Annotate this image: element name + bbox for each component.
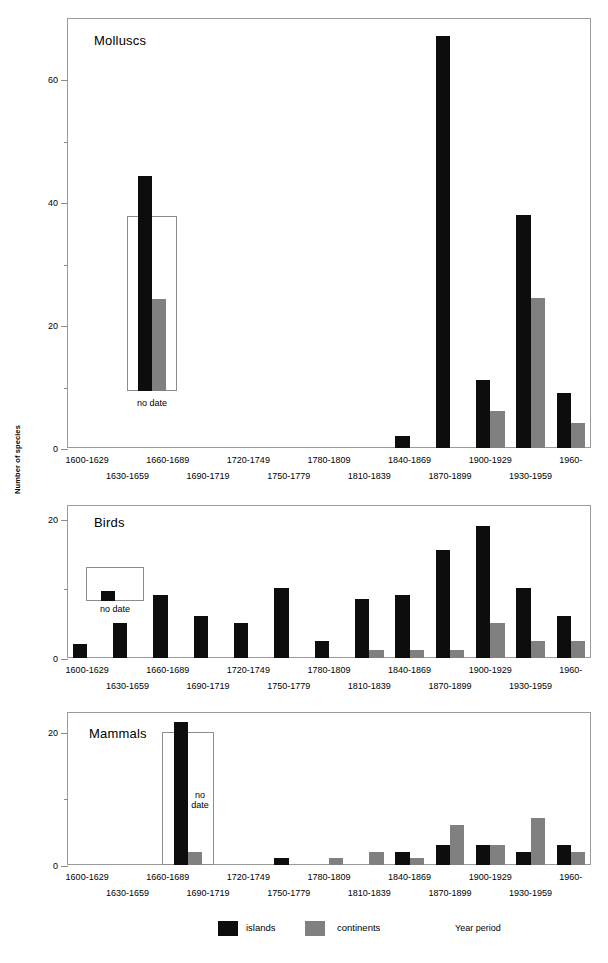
bar-islands (73, 644, 87, 658)
x-tick-label: 1840-1869 (370, 665, 450, 675)
x-tick-label: 1690-1719 (168, 471, 248, 481)
x-tick-label: 1780-1809 (289, 665, 369, 675)
bar-group-birds (67, 505, 591, 658)
bar-continents (571, 423, 585, 448)
x-tick-label: 1720-1749 (208, 665, 288, 675)
x-tick-label: 1810-1839 (329, 888, 409, 898)
no-date-line-1: no (195, 790, 205, 800)
x-axis-labels-birds: 1600-16291630-16591660-16891690-17191720… (67, 665, 591, 705)
x-tick-label: 1780-1809 (289, 455, 369, 465)
bar-islands (194, 616, 208, 658)
x-tick-label: 1900-1929 (450, 665, 530, 675)
bar-islands (395, 852, 409, 865)
bar-group-mammals (67, 712, 591, 865)
y-major-tick (61, 449, 68, 450)
x-tick-label: 1660-1689 (128, 872, 208, 882)
x-tick-label: 1630-1659 (87, 681, 167, 691)
x-tick-label: 1840-1869 (370, 455, 450, 465)
x-tick-label: 1750-1779 (249, 471, 329, 481)
x-tick-label: 1930-1959 (491, 681, 571, 691)
panel-birds: 020 Birds no date (67, 505, 591, 658)
bar-continents (490, 845, 504, 865)
no-date-bar-islands (138, 176, 152, 391)
panel-molluscs: 0204060 Molluscs no date (67, 18, 591, 448)
x-tick-label: 1870-1899 (410, 681, 490, 691)
bar-islands (476, 526, 490, 658)
x-tick-label: 1750-1779 (249, 888, 329, 898)
x-tick-label: 1870-1899 (410, 471, 490, 481)
bar-islands (516, 852, 530, 865)
y-axis-title: Number of species (13, 405, 22, 515)
bar-continents (410, 650, 424, 658)
bar-continents (531, 298, 545, 449)
x-tick-label: 1660-1689 (128, 455, 208, 465)
bar-islands (436, 550, 450, 658)
x-axis-title: Year period (455, 923, 501, 933)
panel-mammals: 020 Mammals no date (67, 712, 591, 865)
bar-islands (234, 623, 248, 658)
bar-continents (531, 818, 545, 865)
bar-islands (274, 588, 288, 658)
x-tick-label: 1600-1629 (47, 665, 127, 675)
bar-islands (315, 641, 329, 658)
x-tick-label: 1780-1809 (289, 872, 369, 882)
x-axis-labels-molluscs: 1600-16291630-16591660-16891690-17191720… (67, 455, 591, 495)
y-tick-label: 20 (18, 321, 58, 331)
y-tick-label: 0 (18, 654, 58, 664)
bar-islands (557, 845, 571, 865)
bar-continents (490, 411, 504, 448)
y-tick-label: 60 (18, 75, 58, 85)
y-tick-label: 20 (18, 515, 58, 525)
no-date-bar-continents (152, 299, 166, 391)
x-tick-label: 1630-1659 (87, 888, 167, 898)
x-tick-label: 1930-1959 (491, 471, 571, 481)
bar-continents (329, 858, 343, 865)
legend-label-islands: islands (246, 922, 276, 933)
x-tick-label: 1810-1839 (329, 681, 409, 691)
y-tick-label: 20 (18, 728, 58, 738)
x-tick-label: 1900-1929 (450, 872, 530, 882)
bar-continents (450, 650, 464, 658)
no-date-label-molluscs: no date (117, 398, 187, 408)
bar-islands (355, 599, 369, 658)
legend: islands continents Year period (0, 921, 608, 951)
legend-swatch-islands (218, 921, 238, 936)
bar-continents (369, 650, 383, 658)
bar-islands (113, 623, 127, 658)
bar-continents (571, 641, 585, 658)
x-tick-label: 1720-1749 (208, 872, 288, 882)
bar-islands (395, 595, 409, 658)
y-major-tick (61, 866, 68, 867)
x-tick-label: 1630-1659 (87, 471, 167, 481)
legend-swatch-continents (305, 921, 325, 936)
no-date-bar-islands (174, 722, 188, 865)
bar-continents (450, 825, 464, 865)
x-tick-label: 1960- (531, 665, 608, 675)
x-axis-labels-mammals: 1600-16291630-16591660-16891690-17191720… (67, 872, 591, 912)
x-tick-label: 1690-1719 (168, 681, 248, 691)
bar-islands (436, 845, 450, 865)
bar-islands (395, 436, 409, 448)
no-date-label-mammals: no date (183, 790, 217, 811)
x-tick-label: 1870-1899 (410, 888, 490, 898)
bar-islands (516, 215, 530, 448)
bar-islands (436, 36, 450, 448)
x-tick-label: 1930-1959 (491, 888, 571, 898)
x-tick-label: 1600-1629 (47, 455, 127, 465)
x-tick-label: 1750-1779 (249, 681, 329, 691)
x-tick-label: 1660-1689 (128, 665, 208, 675)
x-tick-label: 1720-1749 (208, 455, 288, 465)
x-tick-label: 1960- (531, 872, 608, 882)
bar-islands (557, 616, 571, 658)
x-tick-label: 1690-1719 (168, 888, 248, 898)
bar-islands (153, 595, 167, 658)
bar-continents (490, 623, 504, 658)
no-date-label-birds: no date (80, 604, 150, 614)
x-tick-label: 1840-1869 (370, 872, 450, 882)
legend-label-continents: continents (337, 922, 380, 933)
x-tick-label: 1600-1629 (47, 872, 127, 882)
bar-islands (557, 393, 571, 448)
y-major-tick (61, 659, 68, 660)
no-date-bar-continents (188, 852, 202, 865)
y-tick-label: 40 (18, 198, 58, 208)
